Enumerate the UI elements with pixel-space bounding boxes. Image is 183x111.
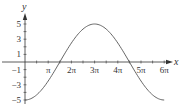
y-axis-label: y (21, 1, 27, 12)
cosine-chart: π2π3π4π5π6π531−1−3−5 x y (0, 0, 183, 111)
y-tick-label: −1 (11, 65, 21, 75)
x-axis-arrow-icon (166, 60, 173, 64)
y-axis-arrow-icon (23, 13, 27, 20)
x-tick-label: 2π (67, 65, 77, 75)
x-tick-label: 6π (160, 65, 170, 75)
y-tick-label: 1 (17, 49, 22, 59)
y-tick-label: −5 (11, 95, 21, 105)
x-axis-label: x (173, 56, 179, 67)
axes (2, 13, 173, 104)
y-tick-label: 5 (17, 19, 22, 29)
x-tick-label: 3π (90, 65, 100, 75)
y-tick-label: 3 (17, 34, 22, 44)
x-tick-label: 4π (113, 65, 123, 75)
x-tick-label: 5π (136, 65, 146, 75)
y-tick-label: −3 (11, 80, 21, 90)
x-tick-label: π (46, 65, 51, 75)
